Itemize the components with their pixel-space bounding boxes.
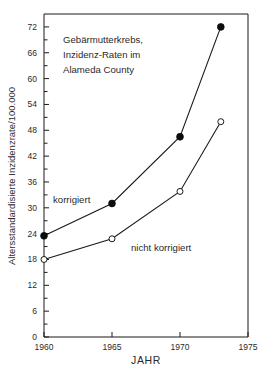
- x-axis-title: JAHR: [131, 354, 161, 366]
- y-tick-label: 0: [32, 332, 37, 342]
- data-point-nicht-korrigiert-1965: [109, 236, 115, 242]
- y-tick-label: 54: [28, 99, 38, 109]
- data-point-korrigiert-1960: [41, 232, 48, 239]
- chart-title-line-1: Gebärmutterkrebs,: [63, 34, 143, 45]
- x-tick-label: 1965: [103, 342, 122, 352]
- x-tick-label: 1960: [35, 342, 54, 352]
- y-tick-label: 48: [28, 125, 38, 135]
- data-point-nicht-korrigiert-1960: [41, 256, 47, 262]
- y-tick-label: 30: [28, 203, 38, 213]
- y-tick-label: 6: [32, 306, 37, 316]
- chart-figure: 061218243036424854606672 196019651970197…: [0, 0, 274, 380]
- chart-title-line-2: Inzidenz-Raten im: [63, 49, 140, 60]
- chart-title: Gebärmutterkrebs, Inzidenz-Raten im Alam…: [63, 34, 143, 75]
- y-tick-label: 42: [28, 151, 38, 161]
- y-tick-label: 24: [28, 229, 38, 239]
- series-label-korrigiert: korrigiert: [53, 194, 91, 205]
- y-tick-label: 66: [28, 48, 38, 58]
- series-label-nicht-korrigiert: nicht korrigiert: [131, 242, 192, 253]
- y-tick-label: 72: [28, 22, 38, 32]
- x-tick-label: 1975: [239, 342, 258, 352]
- chart-title-line-3: Alameda County: [63, 64, 134, 75]
- data-point-korrigiert-1973: [217, 24, 224, 31]
- incidence-rate-line-chart: 061218243036424854606672 196019651970197…: [0, 0, 274, 380]
- data-point-korrigiert-1965: [109, 200, 116, 207]
- y-axis-title: Altersstandardisierte Inzidenzrate/100.0…: [6, 87, 17, 265]
- y-tick-label: 36: [28, 177, 38, 187]
- data-point-korrigiert-1970: [177, 133, 184, 140]
- x-tick-label: 1970: [171, 342, 190, 352]
- data-point-nicht-korrigiert-1970: [177, 188, 183, 194]
- y-tick-label: 18: [28, 254, 38, 264]
- y-tick-label: 12: [28, 280, 38, 290]
- data-point-nicht-korrigiert-1973: [218, 119, 224, 125]
- y-tick-label: 60: [28, 74, 38, 84]
